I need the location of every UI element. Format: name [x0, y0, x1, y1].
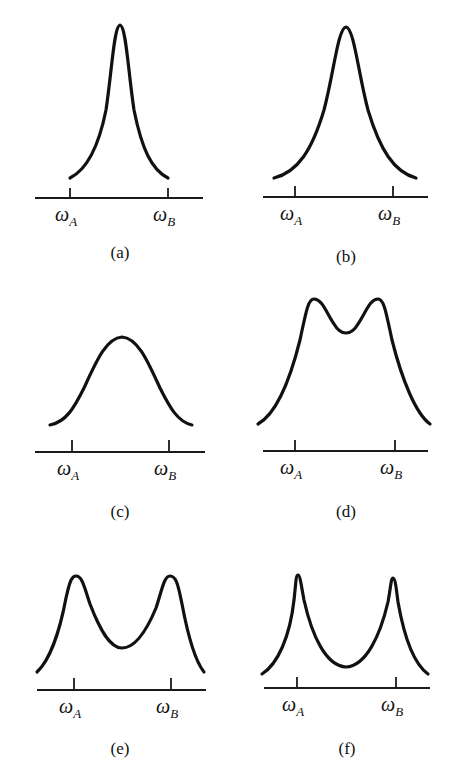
label-omega-b: ωB	[381, 693, 403, 719]
label-omega-a: ωA	[280, 456, 302, 482]
label-omega-b: ωB	[156, 695, 178, 721]
spectral-lineshape-figure: ωA ωB (a) ωA ωB (b) ωA ωB (c)	[0, 0, 455, 767]
panel-label-f: (f)	[339, 739, 356, 758]
curve-d	[258, 299, 430, 424]
label-omega-b: ωB	[380, 456, 402, 482]
label-omega-a: ωA	[280, 202, 302, 228]
panel-a: ωA ωB (a)	[35, 25, 203, 262]
label-omega-a: ωA	[55, 203, 77, 229]
curve-e	[37, 576, 204, 672]
panel-label-e: (e)	[111, 739, 130, 758]
panel-label-b: (b)	[336, 247, 356, 266]
label-omega-a: ωA	[59, 695, 81, 721]
label-omega-b: ωB	[378, 202, 400, 228]
panel-e: ωA ωB (e)	[37, 576, 206, 758]
panel-c: ωA ωB (c)	[35, 337, 205, 521]
curve-b	[274, 27, 416, 178]
curve-f	[262, 575, 428, 674]
panel-label-d: (d)	[336, 502, 356, 521]
curve-a	[70, 25, 168, 178]
panel-b: ωA ωB (b)	[263, 27, 428, 266]
panel-label-a: (a)	[111, 243, 130, 262]
label-omega-b: ωB	[154, 457, 176, 483]
panel-label-c: (c)	[111, 502, 130, 521]
label-omega-b: ωB	[153, 203, 175, 229]
panel-d: ωA ωB (d)	[258, 299, 430, 521]
label-omega-a: ωA	[282, 693, 304, 719]
curve-c	[50, 337, 192, 425]
panel-f: ωA ωB (f)	[262, 575, 430, 758]
label-omega-a: ωA	[57, 457, 79, 483]
